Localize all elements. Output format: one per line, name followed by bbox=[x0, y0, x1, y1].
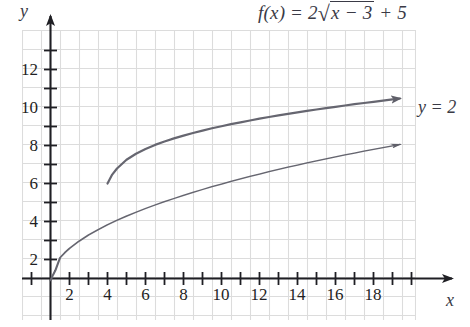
x-tick-label: 16 bbox=[321, 285, 349, 305]
x-tick-label: 8 bbox=[174, 285, 193, 305]
function-label-prefix: f(x) = 2 bbox=[258, 2, 318, 23]
graph-figure: f(x) = 2√x − 3 + 5 y = 2 x y 2 4 6 8 10 … bbox=[0, 0, 470, 327]
x-axis-ticks bbox=[32, 272, 412, 285]
x-tick-label: 2 bbox=[60, 285, 79, 305]
x-tick-label: 18 bbox=[359, 285, 387, 305]
y-tick-label: 8 bbox=[8, 136, 38, 156]
y-tick-label: 6 bbox=[8, 174, 38, 194]
axis-lines bbox=[22, 16, 452, 320]
x-tick-label: 10 bbox=[207, 285, 235, 305]
y-tick-label: 12 bbox=[3, 60, 38, 80]
plot-canvas bbox=[0, 0, 470, 327]
curve-upper-fx bbox=[108, 99, 401, 184]
y-tick-label: 10 bbox=[3, 98, 38, 118]
x-tick-label: 6 bbox=[136, 285, 155, 305]
y-axis-label: y bbox=[20, 1, 28, 22]
x-tick-label: 12 bbox=[245, 285, 273, 305]
x-tick-label: 14 bbox=[283, 285, 311, 305]
function-equation-label: f(x) = 2√x − 3 + 5 bbox=[258, 1, 407, 25]
radical-group: √x − 3 bbox=[318, 1, 375, 25]
y-tick-label: 2 bbox=[8, 250, 38, 270]
x-axis-label: x bbox=[446, 290, 454, 311]
radicand: x − 3 bbox=[330, 1, 374, 24]
function-label-suffix: + 5 bbox=[374, 2, 407, 23]
curve-lower-y2sqrtx bbox=[51, 144, 401, 280]
grid-lines bbox=[22, 30, 416, 320]
y-tick-label: 4 bbox=[8, 212, 38, 232]
radical-sign: √ bbox=[318, 3, 330, 25]
second-curve-label: y = 2 bbox=[418, 97, 456, 118]
x-tick-label: 4 bbox=[98, 285, 117, 305]
